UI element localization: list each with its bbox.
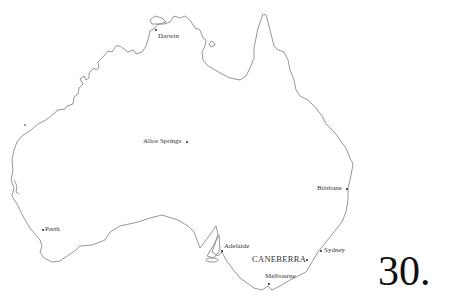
marker-adelaide [221, 250, 223, 252]
yorke-peninsula [207, 235, 220, 258]
marker-sydney [320, 250, 322, 252]
marker-perth [42, 229, 44, 231]
label-sydney: Sydney [324, 247, 345, 254]
marker-canberra [306, 259, 308, 261]
marker-melbourne [268, 283, 270, 285]
label-alice-springs: Alice Springs [143, 138, 181, 145]
label-adelaide: Adelaide [224, 243, 249, 250]
marker-brisbane [346, 188, 348, 190]
marker-offshore [24, 124, 26, 126]
groote-eylandt [209, 41, 215, 47]
shark-bay [14, 180, 19, 194]
label-darwin: Darwin [158, 33, 179, 40]
marker-alice-springs [186, 141, 188, 143]
label-canberra: CANEBERRA [252, 255, 306, 264]
label-perth: Perth [45, 226, 60, 233]
marker-darwin [155, 29, 157, 31]
tiwi-islands [150, 16, 166, 24]
label-brisbane: Brisbane [317, 185, 342, 192]
mainland-coastline [11, 14, 353, 290]
kangaroo-island [206, 258, 218, 262]
page-number: 30. [378, 250, 431, 292]
label-melbourne: Melbourne [265, 273, 296, 280]
